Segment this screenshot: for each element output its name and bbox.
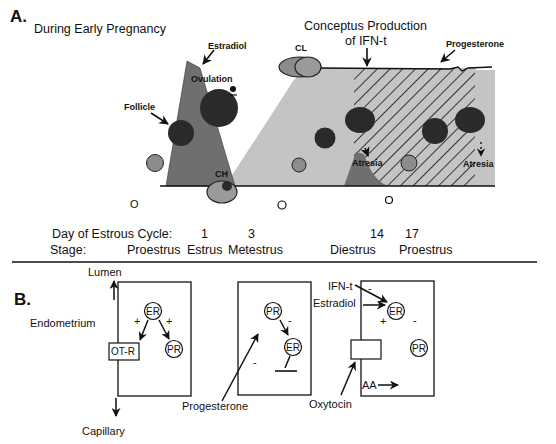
stage-proestrus-2: Proestrus xyxy=(399,243,453,257)
follicle-gray-small xyxy=(147,155,164,172)
endometrium-label: Endometrium xyxy=(30,317,95,329)
day-3: 3 xyxy=(248,227,255,241)
panel-a-title: During Early Pregnancy xyxy=(34,22,167,36)
follicle-dark-2 xyxy=(422,118,448,144)
follicle-dark-atretic-2 xyxy=(455,107,485,133)
panel-a-label: A. xyxy=(10,7,27,26)
follicle-dark xyxy=(168,120,194,146)
pr-to-er-arrow xyxy=(280,320,288,335)
ovulation-label: Ovulation xyxy=(191,74,233,84)
cell-3-minus-top: - xyxy=(368,282,372,294)
follicle-label: Follicle xyxy=(124,102,155,112)
oxytocin-label: Oxytocin xyxy=(309,398,352,410)
cell-2-box xyxy=(238,282,311,395)
oxytocin-receptor-box xyxy=(351,340,381,359)
cell-2-minus-pr-er: - xyxy=(288,314,292,326)
cell-3-pr: PR xyxy=(412,343,426,354)
cell-2-pr: PR xyxy=(266,306,280,317)
follicle-arrow xyxy=(151,113,168,124)
corpus-hemorrhagicum-core xyxy=(222,181,232,191)
ifnt-label: IFN-t xyxy=(328,280,352,292)
ovulated-oocyte xyxy=(230,86,236,92)
cell-2-er: ER xyxy=(286,342,300,353)
corpus-luteum-inner xyxy=(295,57,321,77)
oxytocin-arrow xyxy=(341,362,355,395)
stage-estrus: Estrus xyxy=(187,243,222,257)
otr-label: OT-R xyxy=(111,346,135,357)
lumen-label: Lumen xyxy=(88,266,122,278)
progesterone-region xyxy=(225,68,356,186)
corpus-hemorrhagicum xyxy=(207,181,237,203)
capillary-label: Capillary xyxy=(82,425,125,437)
cell-1-er: ER xyxy=(146,306,160,317)
atresia-label-1: Atresia xyxy=(352,158,384,168)
follicle-dark-atretic-1 xyxy=(345,107,375,133)
progesterone-arrow xyxy=(441,50,455,62)
cell-1-pr: PR xyxy=(167,344,181,355)
day-17: 17 xyxy=(405,227,419,241)
cell-2-minus-left: - xyxy=(253,356,257,368)
stage-diestrus: Diestrus xyxy=(330,243,376,257)
estradiol-arrow xyxy=(203,50,214,64)
ch-label: CH xyxy=(215,169,228,179)
small-follicle-1: O xyxy=(130,198,139,210)
progesterone-label-a: Progesterone xyxy=(446,39,504,49)
cell-3-plus: + xyxy=(380,315,386,327)
panel-b-label: B. xyxy=(14,290,31,309)
progesterone-label-b: Progesterone xyxy=(182,400,248,412)
cell-3-minus-right: - xyxy=(413,314,417,326)
estradiol-label-b: Estradiol xyxy=(313,297,356,309)
aa-label: AA xyxy=(362,379,377,391)
stage-metestrus: Metestrus xyxy=(228,243,283,257)
follicle-gray-mid xyxy=(292,158,306,172)
conceptus-label-line2: of IFN-t xyxy=(345,34,387,48)
estradiol-label: Estradiol xyxy=(208,41,247,51)
cell-1-plus-right: + xyxy=(166,315,172,327)
er-inhibit-arrow xyxy=(285,356,290,368)
cell-3-er: ER xyxy=(389,306,403,317)
follicle-dark-mid xyxy=(315,128,336,149)
conceptus-label-line1: Conceptus Production xyxy=(304,19,427,33)
cell-1-box xyxy=(118,282,191,396)
cell-1-plus-left: + xyxy=(134,315,140,327)
day-1: 1 xyxy=(201,227,208,241)
follicle-gray-2 xyxy=(401,155,417,171)
stage-proestrus-1: Proestrus xyxy=(127,243,181,257)
small-follicle-3 xyxy=(386,197,393,204)
er-to-otr-arrow xyxy=(140,320,148,340)
cl-label: CL xyxy=(295,43,307,53)
small-follicle-2 xyxy=(278,201,286,209)
stage-axis-label: Stage: xyxy=(50,243,86,257)
day-axis-label: Day of Estrous Cycle: xyxy=(52,227,172,241)
estrous-cycle-diagram: A. During Early Pregnancy O Estradiol Ov… xyxy=(0,0,556,444)
atresia-label-2: Atresia xyxy=(463,159,495,169)
day-14: 14 xyxy=(370,227,384,241)
